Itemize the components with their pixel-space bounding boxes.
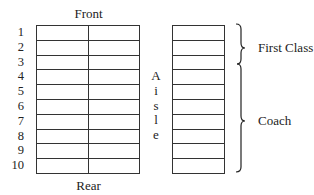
section-braces (0, 0, 314, 195)
rear-label: Rear (37, 178, 140, 194)
coach-label: Coach (258, 114, 291, 129)
first-class-brace-icon (236, 24, 245, 64)
first-class-label: First Class (258, 41, 313, 56)
coach-brace-icon (236, 64, 245, 172)
